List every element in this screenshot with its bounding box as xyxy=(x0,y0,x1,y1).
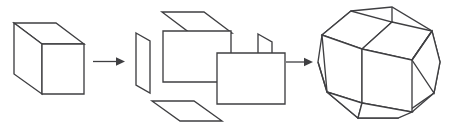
exploded-left-face xyxy=(136,33,150,93)
exploded-front-face xyxy=(217,53,285,104)
figure-root: Cube to rhombicuboctahedron transformati… xyxy=(0,0,457,129)
transformation-figure xyxy=(0,0,457,129)
polyhedron-front-square xyxy=(362,49,412,112)
cube-front-face xyxy=(42,44,84,94)
